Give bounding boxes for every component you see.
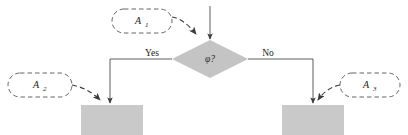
yes-branch-connector bbox=[110, 59, 172, 103]
annotation-a1-subscript: 1 bbox=[145, 21, 149, 29]
no-branch-label: No bbox=[262, 48, 274, 58]
annotation-a1-arrow bbox=[172, 17, 196, 34]
annotation-a3-arrow bbox=[318, 85, 340, 100]
annotation-a3-subscript: 3 bbox=[372, 85, 377, 93]
flowchart-diagram: φ? Yes No A 1 A 2 A 3 bbox=[0, 0, 408, 135]
process-box-yes bbox=[81, 105, 143, 135]
process-box-no bbox=[282, 105, 344, 135]
annotation-a3-label: A bbox=[362, 79, 370, 90]
annotation-capsule-a1 bbox=[112, 9, 172, 33]
no-branch-connector bbox=[248, 59, 313, 103]
annotation-capsule-a3 bbox=[340, 73, 400, 97]
annotation-a2-label: A bbox=[32, 79, 40, 90]
yes-branch-label: Yes bbox=[145, 48, 159, 58]
diagram-canvas: φ? Yes No A 1 A 2 A 3 bbox=[0, 0, 408, 135]
annotation-a2-arrow bbox=[72, 85, 100, 100]
annotation-a1-label: A bbox=[134, 15, 142, 26]
decision-label: φ? bbox=[205, 54, 215, 64]
annotation-a2-subscript: 2 bbox=[43, 85, 47, 93]
annotation-capsule-a2 bbox=[8, 73, 72, 97]
